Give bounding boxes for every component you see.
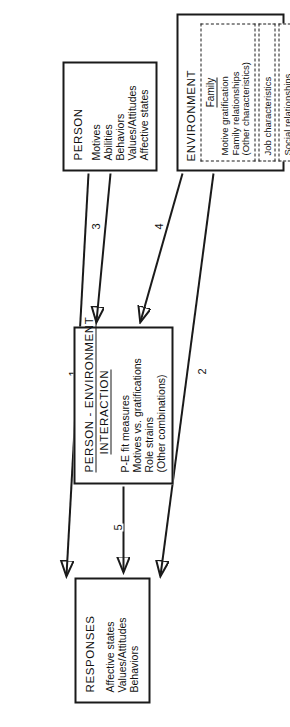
pe-item: P-E fit measures xyxy=(119,338,131,472)
pe-title-line1: PERSON - ENVIRONMENT xyxy=(82,338,96,472)
family-subtitle: Family xyxy=(204,29,217,155)
pe-items: P-E fit measures Motives vs. gratificati… xyxy=(119,338,167,472)
person-items: Motives Abilities Behaviors Values/Attit… xyxy=(90,72,150,160)
arrow-label-2: 2 xyxy=(196,367,207,375)
person-item: Behaviors xyxy=(114,72,126,160)
person-item: Motives xyxy=(90,72,102,160)
responses-item: Affective states xyxy=(104,588,116,692)
pe-item: Role strains xyxy=(143,338,155,472)
pe-title-line1-text: PERSON - ENVIRONMENT xyxy=(82,316,96,472)
family-subtitle-text: Family xyxy=(204,77,217,106)
responses-title: RESPONSES xyxy=(83,588,95,692)
pe-item: (Other combinations) xyxy=(155,338,167,472)
pe-title-line2: INTERACTION xyxy=(97,338,111,454)
family-item: Motive gratification xyxy=(219,29,230,155)
box-person: PERSON Motives Abilities Behaviors Value… xyxy=(62,61,157,171)
environment-family-group: Family Motive gratification Family relat… xyxy=(200,23,255,161)
arrow-label-5: 5 xyxy=(112,523,123,531)
environment-social-relationships: Social relationships xyxy=(278,23,290,161)
box-person-environment-interaction: PERSON - ENVIRONMENT INTERACTION P-E fit… xyxy=(73,326,173,484)
environment-job-characteristics: Job characteristics xyxy=(258,23,275,161)
box-responses: RESPONSES Affective states Values/Attitu… xyxy=(74,577,150,703)
arrow-3-line xyxy=(96,173,110,321)
family-item: (Other characteristics) xyxy=(240,29,251,155)
responses-item: Behaviors xyxy=(128,588,140,692)
responses-items: Affective states Values/Attitudes Behavi… xyxy=(104,588,140,692)
arrow-label-4: 4 xyxy=(153,222,164,230)
pe-title-line2-text: INTERACTION xyxy=(97,369,111,454)
arrow-label-3: 3 xyxy=(90,222,101,230)
family-items: Motive gratification Family relationship… xyxy=(219,29,251,155)
person-item: Affective states xyxy=(138,72,150,160)
family-item: Family relationships xyxy=(230,29,241,155)
diagram-stage: 1 2 3 4 5 RESPONSES Affective states Val… xyxy=(0,0,290,727)
arrow-4-line xyxy=(140,173,182,321)
environment-title: ENVIRONMENT xyxy=(184,23,196,161)
box-environment: ENVIRONMENT Family Motive gratification … xyxy=(176,13,284,171)
person-item: Abilities xyxy=(102,72,114,160)
person-item: Values/Attitudes xyxy=(126,72,138,160)
pe-item: Motives vs. gratifications xyxy=(131,338,143,472)
figure-canvas: 1 2 3 4 5 RESPONSES Affective states Val… xyxy=(0,0,290,727)
responses-item: Values/Attitudes xyxy=(116,588,128,692)
person-title: PERSON xyxy=(71,72,83,160)
